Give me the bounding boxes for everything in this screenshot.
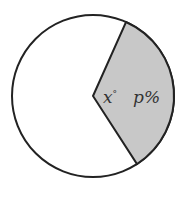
- percent-label: p%: [133, 87, 160, 107]
- pie-diagram: x° p%: [0, 0, 180, 199]
